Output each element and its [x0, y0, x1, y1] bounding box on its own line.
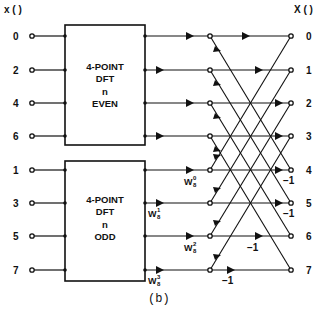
svg-text:4-POINT: 4-POINT	[86, 194, 124, 205]
svg-text:0: 0	[193, 175, 197, 181]
svg-text:ODD: ODD	[94, 231, 115, 242]
output-labels: 0 1 2 3 4 5 6 7	[306, 31, 312, 276]
svg-text:W: W	[184, 243, 193, 253]
svg-text:6: 6	[306, 231, 312, 242]
svg-text:2: 2	[306, 98, 312, 109]
svg-text:−1: −1	[247, 242, 259, 253]
svg-text:n: n	[102, 86, 108, 97]
butterfly-straight-arrows	[227, 32, 283, 274]
svg-text:8: 8	[193, 248, 197, 254]
svg-text:7: 7	[13, 265, 19, 276]
output-header: X ( )	[294, 4, 313, 15]
input-nodes	[30, 34, 34, 272]
svg-text:W: W	[148, 209, 157, 219]
svg-text:4-POINT: 4-POINT	[86, 61, 124, 72]
svg-text:DFT: DFT	[96, 206, 115, 217]
svg-text:W: W	[184, 177, 193, 187]
svg-text:3: 3	[157, 274, 161, 280]
twiddle-w83: W 3 8	[148, 274, 161, 287]
svg-text:7: 7	[306, 265, 312, 276]
svg-text:2: 2	[13, 65, 19, 76]
butterfly-straight	[212, 36, 289, 270]
svg-text:1: 1	[13, 165, 19, 176]
svg-text:4: 4	[13, 98, 19, 109]
even-dft-box	[65, 25, 145, 145]
butterfly-cross	[210, 36, 291, 270]
svg-text:8: 8	[157, 214, 161, 220]
svg-text:−1: −1	[283, 175, 295, 186]
output-nodes	[289, 34, 293, 272]
svg-text:W: W	[148, 276, 157, 286]
svg-text:1: 1	[306, 65, 312, 76]
svg-text:8: 8	[157, 281, 161, 287]
input-wires	[34, 36, 65, 270]
odd-box-label: 4-POINT DFT n ODD	[86, 194, 124, 242]
even-box-label: 4-POINT DFT n EVEN	[86, 61, 124, 109]
twiddle-w82: W 2 8	[184, 241, 197, 254]
input-header: x ( )	[4, 4, 22, 15]
twiddle-w81: W 1 8	[148, 207, 161, 220]
stage1-wires	[145, 36, 208, 270]
svg-text:−1: −1	[283, 208, 295, 219]
input-labels: 0 2 4 6 1 3 5 7	[13, 31, 19, 276]
svg-text:5: 5	[13, 231, 19, 242]
svg-text:4: 4	[306, 165, 312, 176]
svg-text:1: 1	[157, 207, 161, 213]
svg-text:3: 3	[306, 131, 312, 142]
middle-nodes	[208, 34, 212, 272]
figure-caption: (b)	[148, 292, 170, 306]
svg-text:5: 5	[306, 198, 312, 209]
svg-text:n: n	[102, 219, 108, 230]
svg-text:0: 0	[306, 31, 312, 42]
svg-text:EVEN: EVEN	[92, 98, 118, 109]
svg-text:0: 0	[13, 31, 19, 42]
svg-text:6: 6	[13, 131, 19, 142]
twiddle-w80: W 0 8	[184, 175, 197, 188]
svg-text:DFT: DFT	[96, 73, 115, 84]
svg-text:8: 8	[193, 182, 197, 188]
fft-butterfly-diagram: x ( ) X ( ) 0 2 4 6 1 3 5 7 4-POINT DFT …	[0, 0, 320, 310]
svg-text:3: 3	[13, 198, 19, 209]
svg-text:−1: −1	[222, 275, 234, 286]
svg-text:2: 2	[193, 241, 197, 247]
stage1-arrows	[156, 32, 194, 274]
